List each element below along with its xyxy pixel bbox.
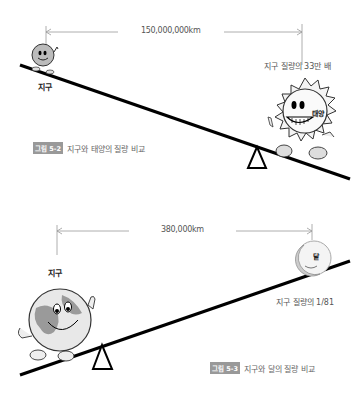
caption-text: 지구와 태양의 질량 비교 <box>67 143 145 154</box>
distance-label: 380,000km <box>161 225 204 234</box>
figure-caption: 그림 5-3 지구와 달의 질량 비교 <box>210 362 315 374</box>
sun-label: 태양 <box>312 108 324 118</box>
figure-earth-sun: 150,000,000km 지구 지구 질량의 33만 배 태양 그림 5-2 … <box>0 0 362 200</box>
earth-label: 지구 <box>48 267 62 278</box>
figure-earth-moon: 380,000km 지구 달 지구 질량의 1/81 그림 5-3 지구와 달의… <box>0 200 362 403</box>
sun-mass-note: 지구 질량의 33만 배 <box>264 60 331 71</box>
earth-character-icon <box>32 44 58 74</box>
moon-mass-note: 지구 질량의 1/81 <box>276 296 334 307</box>
caption-tag: 그림 5-2 <box>33 142 63 154</box>
distance-label: 150,000,000km <box>141 26 200 35</box>
sun-character-icon <box>268 78 336 159</box>
earth-label: 지구 <box>38 81 52 92</box>
earth-character-icon <box>18 289 95 361</box>
moon-label: 달 <box>313 251 319 261</box>
caption-tag: 그림 5-3 <box>210 362 240 374</box>
caption-text: 지구와 달의 질량 비교 <box>244 363 315 374</box>
figure-caption: 그림 5-2 지구와 태양의 질량 비교 <box>33 142 145 154</box>
